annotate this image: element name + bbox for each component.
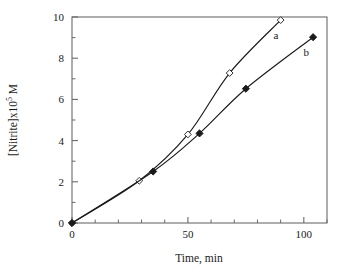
data-series-group [68, 17, 316, 227]
y-axis-title-suffix: M [7, 84, 19, 97]
y-tick-label: 8 [42, 53, 64, 64]
data-point-marker [150, 168, 157, 175]
axis-ticks [72, 17, 327, 223]
plot-frame-rect [72, 17, 327, 223]
series-annotation-a: a [274, 29, 279, 41]
y-axis-title: [Nitrite]x105 M [5, 84, 19, 156]
y-tick-label: 0 [42, 218, 64, 229]
x-tick-label: 50 [182, 229, 193, 240]
y-axis-title-prefix: [Nitrite]x10 [7, 101, 19, 156]
y-tick-label: 10 [42, 12, 64, 23]
figure-container: 0246810050100 [Nitrite]x105 M Time, min … [0, 0, 338, 274]
x-tick-label: 0 [69, 229, 75, 240]
x-axis-title: Time, min [175, 252, 223, 264]
y-axis-title-exponent: 5 [5, 97, 14, 101]
y-tick-label: 2 [42, 176, 64, 187]
series-b [68, 34, 316, 227]
x-tick-label: 100 [296, 229, 313, 240]
y-tick-label: 4 [42, 135, 64, 146]
plot-frame [72, 17, 327, 223]
series-a [69, 17, 284, 227]
series-annotation-b: b [303, 46, 309, 58]
data-point-marker [68, 219, 75, 226]
series-line-b [72, 37, 313, 223]
y-tick-label: 6 [42, 94, 64, 105]
series-line-a [72, 20, 281, 223]
